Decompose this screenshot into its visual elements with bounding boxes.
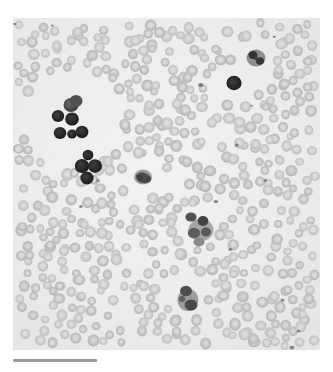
film-grain-overlay <box>13 18 320 350</box>
blood-smear-canvas <box>13 18 320 350</box>
blood-smear-image <box>13 18 320 350</box>
micrograph-figure <box>0 0 333 372</box>
scale-bar <box>13 359 97 362</box>
